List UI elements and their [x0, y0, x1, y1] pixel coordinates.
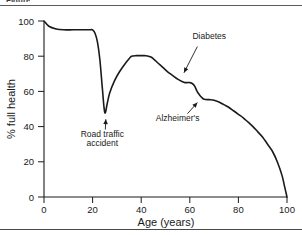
x-axis-ticks: [44, 197, 287, 203]
y-tick-label-40: 40: [23, 121, 34, 132]
x-tick-label-20: 20: [87, 204, 98, 215]
y-tick-label-60: 60: [23, 86, 34, 97]
bottom-divider: [0, 229, 302, 230]
y-tick-label-0: 0: [29, 192, 34, 203]
figure-panel: Figure 100 80 60 40 20 0: [0, 0, 302, 235]
x-tick-label-0: 0: [41, 204, 46, 215]
annotation-alzheimers: Alzheimer's: [156, 103, 200, 124]
road-traffic-accident-label-line2: accident: [86, 138, 118, 148]
health-curve: [44, 21, 287, 197]
y-tick-label-100: 100: [18, 16, 34, 27]
figure-caption-fragment: Figure: [6, 0, 30, 2]
x-tick-label-60: 60: [185, 204, 196, 215]
x-tick-label-40: 40: [136, 204, 147, 215]
alzheimers-label: Alzheimer's: [156, 113, 200, 123]
diabetes-label: Diabetes: [192, 31, 226, 41]
x-tick-label-100: 100: [279, 204, 295, 215]
y-tick-label-20: 20: [23, 156, 34, 167]
annotation-diabetes: Diabetes: [184, 31, 226, 73]
road-traffic-accident-arrowhead-icon: [103, 119, 108, 124]
y-axis-ticks: [38, 21, 44, 197]
x-tick-label-80: 80: [233, 204, 244, 215]
annotation-road-traffic-accident: Road traffic accident: [81, 119, 125, 148]
y-tick-label-80: 80: [23, 51, 34, 62]
x-axis-title: Age (years): [138, 216, 195, 228]
y-axis-title: % full health: [5, 79, 17, 139]
health-vs-age-line-chart: 100 80 60 40 20 0 0 20 40 60 80 100 Age …: [0, 6, 302, 229]
